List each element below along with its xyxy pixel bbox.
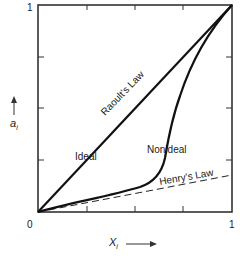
x-arrow-icon [150, 241, 157, 247]
origin-label: 0 [27, 219, 33, 230]
activity-chart: Raoult's Law Ideal Nonideal Henry's Law … [0, 0, 240, 258]
y-axis-label: ai [10, 117, 18, 131]
ideal-label: Ideal [75, 151, 97, 162]
x-axis-label: Xi [108, 236, 118, 250]
henrys-law-label: Henry's Law [158, 167, 215, 187]
x-max-label: 1 [229, 219, 235, 230]
raoults-law-label: Raoult's Law [99, 68, 147, 117]
y-arrow-icon [11, 96, 17, 103]
y-max-label: 1 [27, 2, 33, 13]
nonideal-label: Nonideal [147, 144, 186, 155]
